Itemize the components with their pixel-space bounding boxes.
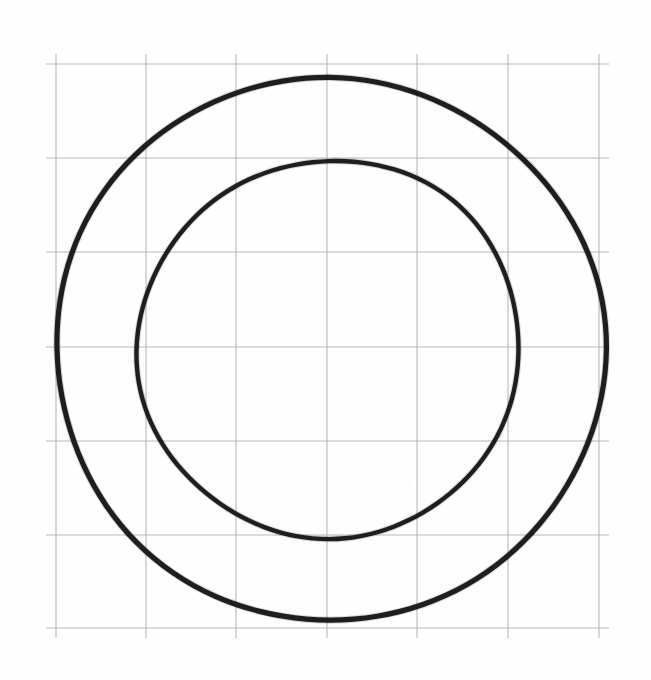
drawing-canvas [0, 0, 651, 680]
paper-background [0, 0, 651, 680]
concentric-circles-figure [0, 0, 651, 680]
